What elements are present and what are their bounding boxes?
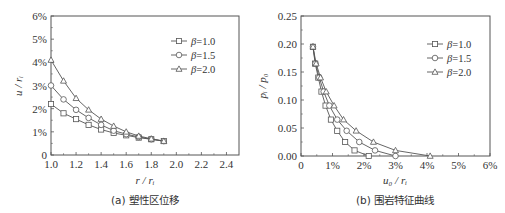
y-tick-label: 5%	[32, 33, 47, 45]
x-tick-label: 4%	[420, 159, 435, 171]
square-marker-icon	[61, 111, 66, 116]
legend-item: β=2.0	[427, 67, 471, 78]
data-series	[48, 57, 167, 144]
chart-caption: (a) 塑性区位移	[111, 194, 180, 206]
y-tick-label: 3%	[32, 80, 47, 92]
circle-marker-icon	[176, 52, 182, 58]
y-tick-label: 0.10	[278, 94, 298, 106]
circle-marker-icon	[98, 122, 104, 128]
legend-item: β=1.5	[427, 53, 471, 64]
y-tick-label: 0.05	[278, 122, 298, 134]
square-marker-icon	[48, 101, 53, 106]
legend-item: β=1.0	[171, 36, 215, 47]
square-marker-icon	[176, 38, 181, 43]
chart-caption: (b) 围岩特征曲线	[356, 194, 435, 206]
circle-marker-icon	[356, 139, 362, 145]
circle-marker-icon	[61, 97, 67, 103]
triangle-marker-icon	[61, 78, 67, 83]
circle-marker-icon	[344, 128, 350, 134]
plot-frame	[301, 16, 490, 156]
series-circle	[310, 44, 398, 159]
legend-item: β=1.0	[427, 39, 471, 50]
y-tick-label: 0.20	[278, 38, 298, 50]
square-marker-icon	[352, 148, 357, 153]
legend-label: β=1.0	[446, 39, 471, 50]
y-axis-label: u / rᵢ	[12, 76, 24, 96]
x-tick-label: 3%	[388, 159, 403, 171]
x-tick-label: 2.0	[169, 158, 183, 170]
legend-label: β=2.0	[190, 64, 215, 75]
axis-ticks: 1.01.21.41.61.82.02.22.401%2%3%4%5%6%	[32, 10, 234, 170]
y-tick-label: 0	[42, 149, 48, 161]
legend: β=1.0β=1.5β=2.0	[427, 39, 471, 78]
y-tick-label: 1%	[32, 126, 47, 138]
legend-label: β=1.5	[190, 50, 215, 61]
x-axis-label: r / rᵢ	[136, 174, 155, 186]
triangle-marker-icon	[341, 117, 347, 122]
square-marker-icon	[432, 41, 437, 46]
square-marker-icon	[73, 116, 78, 121]
circle-marker-icon	[372, 148, 378, 154]
circle-marker-icon	[86, 115, 92, 121]
x-tick-label: 1.8	[144, 158, 158, 170]
figure-canvas: 1.01.21.41.61.82.02.22.401%2%3%4%5%6% β=…	[0, 0, 505, 213]
legend-label: β=2.0	[446, 67, 471, 78]
legend-label: β=1.0	[190, 36, 215, 47]
chart-rock-characteristic-curve: 01%2%3%4%5%6%0.000.050.100.150.200.25 β=…	[256, 10, 497, 206]
x-tick-label: 1.2	[69, 158, 83, 170]
data-series	[310, 44, 433, 159]
legend: β=1.0β=1.5β=2.0	[171, 36, 215, 75]
square-marker-icon	[343, 139, 348, 144]
y-tick-label: 0.15	[278, 66, 298, 78]
triangle-marker-icon	[98, 116, 104, 121]
circle-marker-icon	[393, 153, 399, 159]
circle-marker-icon	[432, 55, 438, 61]
triangle-marker-icon	[370, 139, 376, 144]
series-triangle	[310, 44, 433, 159]
square-marker-icon	[86, 122, 91, 127]
x-tick-label: 2.2	[195, 158, 209, 170]
chart-plastic-zone-displacement: 1.01.21.41.61.82.02.22.401%2%3%4%5%6% β=…	[12, 10, 239, 206]
x-tick-label: 1%	[325, 159, 340, 171]
x-tick-label: 2.4	[220, 158, 234, 170]
square-marker-icon	[366, 153, 371, 158]
x-tick-label: 1.6	[119, 158, 133, 170]
x-tick-label: 2%	[357, 159, 372, 171]
axis-ticks: 01%2%3%4%5%6%0.000.050.100.150.200.25	[278, 10, 498, 171]
legend-item: β=1.5	[171, 50, 215, 61]
square-marker-icon	[335, 128, 340, 133]
square-marker-icon	[328, 117, 333, 122]
y-tick-label: 0.25	[278, 10, 298, 22]
triangle-marker-icon	[48, 57, 54, 62]
x-tick-label: 1.4	[94, 158, 108, 170]
y-tick-label: 6%	[32, 10, 47, 22]
legend-item: β=2.0	[171, 64, 215, 75]
triangle-marker-icon	[111, 123, 117, 128]
circle-marker-icon	[48, 83, 54, 89]
y-tick-label: 2%	[32, 103, 47, 115]
legend-label: β=1.5	[446, 53, 471, 64]
y-tick-label: 0.00	[278, 150, 298, 162]
x-tick-label: 0	[298, 159, 304, 171]
x-tick-label: 6%	[483, 159, 498, 171]
circle-marker-icon	[73, 107, 79, 113]
triangle-marker-icon	[123, 129, 129, 134]
x-axis-label: u₀ / rᵢ	[383, 174, 407, 186]
y-tick-label: 4%	[32, 56, 47, 68]
circle-marker-icon	[334, 117, 340, 123]
y-axis-label: pᵢ / p₀	[256, 73, 268, 99]
x-tick-label: 5%	[451, 159, 466, 171]
